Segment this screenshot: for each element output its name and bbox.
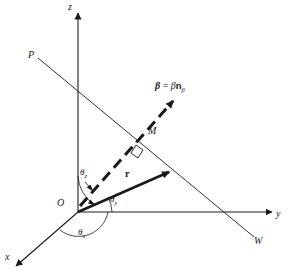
theta-z-subscript: z [84, 172, 87, 179]
axis-label-z: z [68, 2, 72, 12]
vector-label-beta: β = βnβ [155, 81, 185, 94]
angle-pointer-theta-z [85, 182, 93, 191]
angle-label-theta-x: θx [78, 228, 85, 239]
beta-n-subscript: β [182, 86, 185, 93]
point-label-m: M [148, 126, 156, 136]
point-label-p: P [28, 50, 34, 60]
diagram-canvas: z y x O M P W r β = βnβ θz θy θx [0, 0, 292, 277]
angle-label-theta-z: θz [80, 168, 87, 179]
vector-label-r: r [125, 169, 129, 179]
point-label-origin: O [57, 198, 64, 208]
point-label-w: W [254, 236, 262, 246]
diagram-svg [0, 0, 292, 277]
beta-equals-sign: = [160, 80, 171, 91]
theta-y-subscript: y [114, 199, 117, 206]
axis-label-x: x [5, 252, 9, 262]
theta-x-subscript: x [82, 232, 85, 239]
angle-label-theta-y: θy [110, 195, 117, 206]
x-axis [16, 212, 78, 266]
right-angle-mark [131, 145, 143, 158]
axis-label-y: y [276, 209, 280, 219]
line-pw [38, 58, 254, 237]
